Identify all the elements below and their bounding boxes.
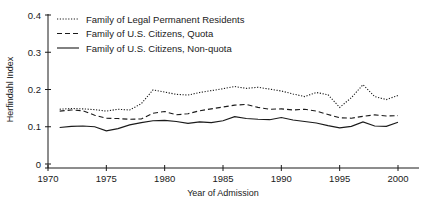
legend-label-1: Family of Legal Permanent Residents bbox=[86, 14, 245, 25]
y-tick-label: 0.2 bbox=[28, 84, 41, 95]
legend-label-2: Family of U.S. Citizens, Quota bbox=[86, 28, 214, 39]
x-tick-label: 2000 bbox=[387, 173, 408, 184]
y-axis-title: Herfindahl Index bbox=[5, 56, 15, 122]
x-axis-title: Year of Admission bbox=[187, 188, 259, 198]
y-tick-label: 0 bbox=[36, 159, 41, 170]
series-lines bbox=[60, 85, 398, 131]
line-chart: 00.10.20.30.4197019751980198519901995200… bbox=[0, 0, 421, 199]
chart-legend: Family of Legal Permanent ResidentsFamil… bbox=[57, 14, 245, 54]
legend-label-3: Family of U.S. Citizens, Non-quota bbox=[86, 43, 232, 54]
x-tick-label: 1985 bbox=[212, 173, 233, 184]
chart-figure: 00.10.20.30.4197019751980198519901995200… bbox=[0, 0, 421, 199]
x-tick-label: 1970 bbox=[37, 173, 58, 184]
series-line-2 bbox=[60, 104, 398, 119]
x-tick-label: 1975 bbox=[96, 173, 117, 184]
y-tick-label: 0.1 bbox=[28, 121, 41, 132]
y-tick-label: 0.3 bbox=[28, 47, 41, 58]
series-line-1 bbox=[60, 85, 398, 111]
x-tick-label: 1980 bbox=[154, 173, 175, 184]
x-tick-label: 1990 bbox=[271, 173, 292, 184]
y-tick-label: 0.4 bbox=[28, 10, 41, 21]
x-tick-label: 1995 bbox=[329, 173, 350, 184]
